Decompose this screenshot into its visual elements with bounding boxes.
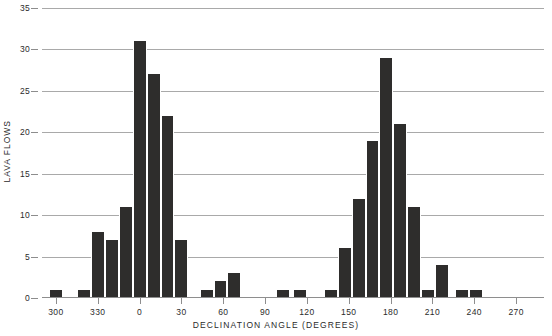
y-axis-tick-mark	[31, 174, 38, 175]
y-axis-tick-mark	[31, 91, 38, 92]
y-axis-title: LAVA FLOWS	[2, 120, 12, 183]
histogram-bar	[214, 281, 228, 298]
x-axis-tick-label: 270	[508, 307, 523, 317]
x-axis-tick-mark	[349, 298, 350, 304]
histogram-bar	[407, 207, 421, 298]
x-axis-tick-mark	[140, 298, 141, 304]
gridline	[42, 298, 544, 299]
x-axis-tick-label: 90	[260, 307, 270, 317]
x-axis-line	[42, 297, 544, 298]
y-axis-tick-label: 10	[20, 210, 30, 220]
histogram-bar	[227, 273, 241, 298]
plot-area	[42, 8, 544, 298]
y-axis-tick-mark	[31, 257, 38, 258]
histogram-bar	[379, 58, 393, 298]
y-axis-tick-mark	[31, 298, 38, 299]
y-axis-tick-label: 20	[20, 127, 30, 137]
y-axis-tick-label: 5	[25, 252, 30, 262]
x-axis-title: DECLINATION ANGLE (DEGREES)	[0, 320, 552, 330]
y-axis-tick-mark	[31, 8, 38, 9]
y-axis-tick-label: 35	[20, 3, 30, 13]
y-axis-tick-mark	[31, 215, 38, 216]
histogram-bar	[338, 248, 352, 298]
histogram-bar	[133, 41, 147, 298]
x-axis-tick-label: 60	[218, 307, 228, 317]
histogram-bar	[174, 240, 188, 298]
y-axis-tick-mark	[31, 132, 38, 133]
x-axis-tick-mark	[98, 298, 99, 304]
x-axis-tick-mark	[56, 298, 57, 304]
x-axis-tick-mark	[181, 298, 182, 304]
y-axis-tick-label: 25	[20, 86, 30, 96]
x-axis-tick-label: 330	[90, 307, 105, 317]
x-axis-tick-label: 300	[48, 307, 63, 317]
y-axis-tick-label: 0	[25, 293, 30, 303]
x-axis-tick-label: 30	[176, 307, 186, 317]
x-axis-tick-label: 150	[341, 307, 356, 317]
x-axis-tick-mark	[265, 298, 266, 304]
histogram-bar	[161, 116, 175, 298]
x-axis-tick-label: 180	[383, 307, 398, 317]
x-axis-tick-mark	[474, 298, 475, 304]
x-axis-tick-label: 240	[467, 307, 482, 317]
x-axis-tick-label: 0	[137, 307, 142, 317]
histogram-bar	[366, 141, 380, 298]
histogram-bar	[119, 207, 133, 298]
y-axis-tick-mark	[31, 49, 38, 50]
x-axis-tick-mark	[391, 298, 392, 304]
histogram-bar	[91, 232, 105, 298]
histogram-bar	[147, 74, 161, 298]
bars-container	[42, 8, 544, 298]
x-axis-tick-label: 210	[425, 307, 440, 317]
histogram-bar	[393, 124, 407, 298]
x-axis-tick-mark	[223, 298, 224, 304]
x-axis-tick-mark	[432, 298, 433, 304]
x-axis-tick-mark	[516, 298, 517, 304]
histogram-figure: 05101520253035 LAVA FLOWS 30033003060901…	[0, 0, 552, 336]
histogram-bar	[435, 265, 449, 298]
x-axis-tick-mark	[307, 298, 308, 304]
x-axis-tick-label: 120	[299, 307, 314, 317]
histogram-bar	[352, 199, 366, 298]
y-axis-tick-label: 15	[20, 169, 30, 179]
histogram-bar	[105, 240, 119, 298]
y-axis-tick-label: 30	[20, 44, 30, 54]
